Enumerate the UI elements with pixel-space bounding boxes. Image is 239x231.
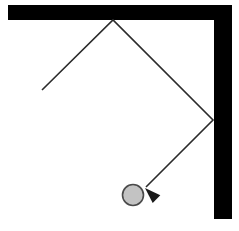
diagram-svg — [0, 0, 239, 231]
top-wall — [8, 5, 232, 20]
right-wall — [214, 5, 232, 219]
diagram-canvas — [0, 0, 239, 231]
diagram-background — [0, 0, 239, 231]
ball — [123, 185, 144, 206]
